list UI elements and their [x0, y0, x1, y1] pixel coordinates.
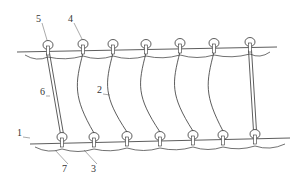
top-ring-clip	[248, 43, 251, 52]
bottom-ring-clip	[221, 136, 224, 145]
callout-label-7: 7	[62, 164, 67, 174]
rigid-rod-left-edge	[47, 53, 61, 134]
rope-ladder-diagram	[0, 0, 306, 186]
flexible-cord	[208, 52, 223, 131]
callout-label-2: 2	[97, 85, 102, 95]
callout-label-3: 3	[91, 164, 96, 174]
rigid-rod-left-edge	[249, 50, 254, 131]
leader-line-1	[23, 137, 30, 138]
flexible-cord	[77, 53, 94, 133]
top-ring-clip	[81, 45, 84, 54]
callout-label-6: 6	[40, 87, 45, 97]
leader-line-7	[55, 150, 68, 164]
bottom-ring-clip	[92, 138, 95, 147]
top-ring-clip	[178, 44, 181, 53]
leader-line-3	[84, 150, 97, 164]
bottom-ring-clip	[158, 137, 161, 146]
callout-label-1: 1	[17, 128, 22, 138]
leader-line-4	[74, 23, 82, 39]
callout-label-5: 5	[36, 14, 41, 24]
callout-label-4: 4	[68, 14, 73, 24]
flexible-cord	[108, 53, 127, 132]
bottom-ring-clip	[60, 138, 63, 147]
flexible-cord	[141, 53, 160, 132]
flexible-cord	[174, 52, 193, 131]
bottom-ring-clip	[253, 135, 256, 144]
top-ring-clip	[46, 46, 49, 55]
top-ring-clip	[212, 44, 215, 53]
bottom-ring-clip	[191, 136, 194, 145]
rigid-rod-right-edge	[50, 53, 64, 134]
bottom-ring-clip	[125, 137, 128, 146]
top-ring-clip	[111, 45, 114, 54]
leader-line-5	[42, 23, 47, 40]
rigid-rod-right-edge	[252, 50, 257, 131]
top-ring-clip	[144, 45, 147, 54]
